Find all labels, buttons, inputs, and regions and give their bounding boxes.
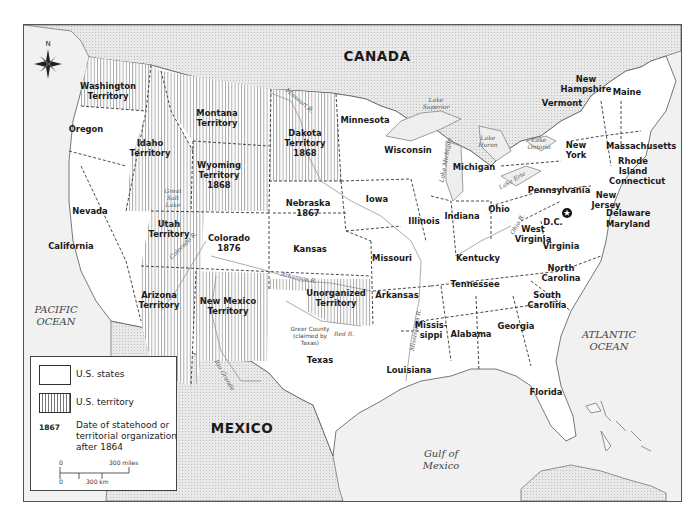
- region-label-ohio: Ohio: [488, 204, 510, 214]
- region-label-michigan: Michigan: [453, 162, 496, 172]
- region-label-rhode-island: Rhode Island: [618, 156, 648, 176]
- region-label-dakota: Dakota Territory 1868: [285, 128, 326, 158]
- region-label-new-york: New York: [566, 140, 587, 160]
- region-label-georgia: Georgia: [498, 321, 535, 331]
- water-label-atlantic: ATLANTIC OCEAN: [582, 329, 636, 353]
- region-label-wisconsin: Wisconsin: [384, 145, 432, 155]
- region-label-maine: Maine: [613, 87, 642, 97]
- region-label-louisiana: Louisiana: [386, 365, 431, 375]
- region-label-pennsylvania: Pennsylvania: [528, 185, 591, 195]
- region-label-kansas: Kansas: [293, 244, 327, 254]
- scale-miles-label: 300 miles: [109, 459, 138, 466]
- legend-label-states: U.S. states: [76, 369, 124, 380]
- region-label-new-hampshire: New Hampshire: [560, 74, 611, 94]
- scale-km-label: 300 km: [86, 478, 109, 485]
- region-label-tennessee: Tennessee: [450, 279, 499, 289]
- annotation-greer-county: Greer County (claimed by Texas): [291, 326, 330, 347]
- region-label-utah: Utah Territory: [149, 219, 190, 239]
- region-label-new-mexico: New Mexico Territory: [200, 296, 256, 316]
- river-label-red: Red R.: [334, 330, 354, 337]
- scale-miles-zero: 0: [59, 459, 63, 466]
- region-label-new-jersey: New Jersey: [591, 190, 620, 210]
- region-label-arkansas: Arkansas: [375, 290, 418, 300]
- map-legend: U.S. states U.S. territory 1867 Date of …: [30, 356, 177, 491]
- water-label-gulf: Gulf of Mexico: [423, 448, 460, 472]
- capital-star-icon: [562, 208, 572, 218]
- region-label-oregon: Oregon: [69, 124, 104, 134]
- region-label-colorado: Colorado 1876: [208, 233, 250, 253]
- region-label-kentucky: Kentucky: [456, 253, 500, 263]
- region-label-indiana: Indiana: [444, 211, 479, 221]
- compass-north-label: N: [45, 39, 50, 49]
- water-label-pacific: PACIFIC OCEAN: [34, 304, 77, 328]
- region-label-south-carolina: South Carolina: [527, 290, 566, 310]
- region-label-delaware: Delaware: [606, 208, 650, 218]
- water-label-lake-huron: Lake Huron: [478, 134, 497, 148]
- region-label-minnesota: Minnesota: [340, 115, 389, 125]
- region-label-connecticut: Connecticut: [609, 176, 665, 186]
- region-label-mississippi: Missis- sippi: [415, 320, 448, 340]
- water-label-great-salt-lake: Great Salt Lake: [164, 187, 181, 208]
- region-label-california: California: [48, 241, 94, 251]
- region-label-alabama: Alabama: [450, 329, 491, 339]
- region-label-vermont: Vermont: [542, 98, 582, 108]
- legend-swatch-states: [39, 365, 71, 385]
- compass-star-icon: [34, 49, 62, 79]
- region-label-wyoming: Wyoming Territory 1868: [197, 160, 241, 190]
- region-label-arizona: Arizona Territory: [139, 290, 180, 310]
- legend-swatch-territory: [39, 393, 71, 413]
- region-label-nevada: Nevada: [72, 206, 107, 216]
- region-label-florida: Florida: [530, 387, 563, 397]
- water-label-lake-superior: Lake Superior: [423, 96, 450, 110]
- region-label-virginia: Virginia: [543, 241, 580, 251]
- region-label-nebraska: Nebraska 1867: [286, 198, 331, 218]
- region-label-washington: Washington Territory: [80, 81, 136, 101]
- region-label-north-carolina: North Carolina: [541, 263, 580, 283]
- region-label-iowa: Iowa: [366, 194, 388, 204]
- country-label-canada: CANADA: [344, 49, 411, 64]
- region-label-unorganized: Unorganized Territory: [306, 288, 366, 308]
- region-label-massachusetts: Massachusetts: [606, 141, 676, 151]
- region-label-missouri: Missouri: [372, 253, 412, 263]
- region-label-illinois: Illinois: [408, 216, 439, 226]
- country-label-mexico: MEXICO: [211, 421, 273, 436]
- legend-label-territory: U.S. territory: [76, 397, 134, 408]
- water-label-lake-ontario: Lake Ontario: [527, 136, 550, 150]
- region-label-idaho: Idaho Territory: [130, 138, 171, 158]
- region-label-maryland: Maryland: [606, 219, 650, 229]
- compass-rose-icon: N: [34, 39, 62, 79]
- legend-label-year: Date of statehood or territorial organiz…: [76, 420, 177, 453]
- region-label-montana: Montana Territory: [196, 108, 237, 128]
- scale-km-zero: 0: [59, 478, 63, 485]
- legend-year-sample: 1867: [39, 423, 60, 432]
- region-label-texas: Texas: [307, 355, 333, 365]
